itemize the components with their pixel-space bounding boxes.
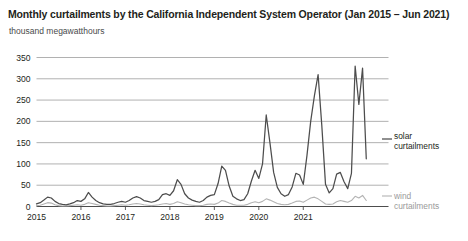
gridlines — [37, 58, 389, 186]
legend-item-wind: wind curtailments — [394, 191, 439, 211]
legend-label-wind-line1: wind — [394, 191, 439, 201]
x-tick-label: 2015 — [27, 212, 46, 222]
x-tick-label: 2020 — [249, 212, 268, 222]
legend-item-solar: solar curtailments — [394, 131, 439, 151]
y-tick-label: 300 — [16, 74, 31, 84]
x-tick-label: 2019 — [205, 212, 224, 222]
legend-label-wind-line2: curtailments — [394, 201, 439, 211]
y-tick-label: 350 — [16, 53, 31, 63]
y-tick-label: 50 — [21, 180, 31, 190]
y-tick-label: 200 — [16, 116, 31, 126]
x-tick-label: 2018 — [160, 212, 179, 222]
x-tick-label: 2016 — [71, 212, 90, 222]
chart-figure: Monthly curtailments by the California I… — [0, 0, 468, 241]
y-tick-label: 150 — [16, 138, 31, 148]
y-tick-label: 250 — [16, 95, 31, 105]
series-line-solar — [37, 66, 367, 205]
x-tick-label: 2021 — [294, 212, 313, 222]
x-axis-tick-labels: 2015201620172018201920202021 — [27, 212, 313, 222]
y-tick-label: 0 — [26, 202, 31, 212]
legend-marks — [382, 139, 392, 196]
legend-label-solar-line1: solar — [394, 131, 439, 141]
x-tick-label: 2017 — [116, 212, 135, 222]
x-axis — [37, 207, 389, 211]
y-tick-label: 100 — [16, 159, 31, 169]
y-axis-tick-labels: 050100150200250300350 — [16, 53, 31, 212]
legend-label-solar-line2: curtailments — [394, 141, 439, 151]
